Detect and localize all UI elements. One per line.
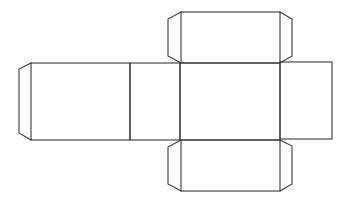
top-flap-left xyxy=(168,12,181,63)
face-bottom xyxy=(181,140,280,191)
face-top xyxy=(181,12,280,63)
face-end-left xyxy=(130,63,180,140)
top-flap-right xyxy=(280,12,292,63)
box-net-diagram xyxy=(0,0,348,206)
bottom-flap-left xyxy=(168,140,181,191)
bottom-flap-right xyxy=(280,140,292,191)
top-panel xyxy=(168,12,292,63)
glue-flap-left xyxy=(19,63,31,140)
face-end-right xyxy=(280,62,332,139)
face-front xyxy=(180,63,280,140)
main-strip xyxy=(31,62,332,140)
face-side-left xyxy=(31,63,130,140)
bottom-panel xyxy=(168,140,292,191)
